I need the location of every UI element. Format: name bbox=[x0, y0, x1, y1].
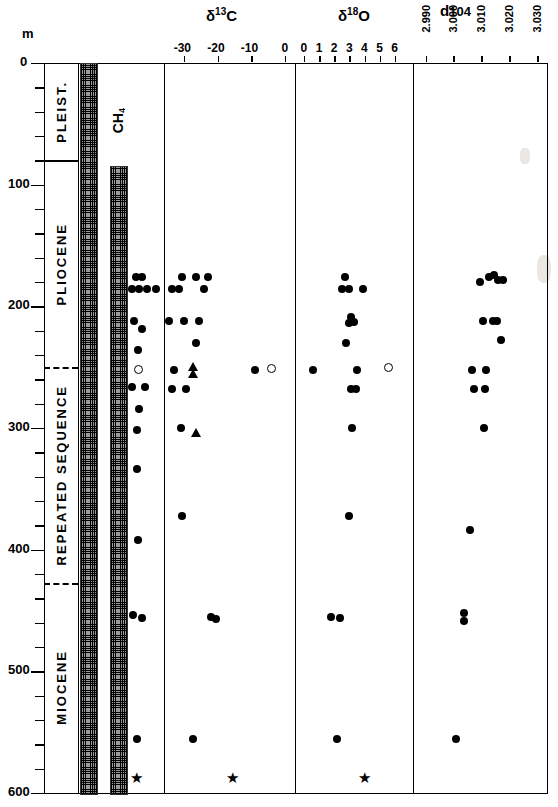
data-point bbox=[480, 424, 488, 432]
figure-canvas: m δ13C δ18O d104 H2S CH4 010020030040050… bbox=[0, 0, 558, 807]
depth-tick bbox=[35, 525, 44, 526]
data-point bbox=[192, 339, 200, 347]
data-point bbox=[470, 385, 478, 393]
d13c-superscript: 13 bbox=[215, 6, 226, 17]
depth-tick bbox=[31, 550, 44, 551]
data-point bbox=[345, 285, 353, 293]
depth-tick-label: 300 bbox=[8, 419, 30, 434]
depth-tick bbox=[35, 258, 44, 259]
d104-tick bbox=[481, 56, 482, 62]
d104-tick-label: 2.990 bbox=[420, 5, 432, 33]
panel-divider-4 bbox=[413, 63, 414, 793]
d18o-element: O bbox=[358, 7, 370, 24]
d18O-tick bbox=[304, 56, 305, 62]
d18O-tick bbox=[334, 56, 335, 62]
data-point bbox=[251, 366, 259, 374]
d13C-tick bbox=[285, 56, 286, 62]
data-point bbox=[182, 385, 190, 393]
d18O-tick-label: 4 bbox=[361, 41, 368, 55]
data-point bbox=[133, 426, 141, 434]
data-point-star: ★ bbox=[226, 770, 239, 785]
data-point bbox=[178, 512, 186, 520]
data-point-open bbox=[267, 364, 276, 373]
depth-tick bbox=[35, 477, 44, 478]
depth-tick bbox=[35, 87, 44, 88]
depth-unit-label: m bbox=[22, 26, 34, 41]
depth-tick-label: 100 bbox=[8, 176, 30, 191]
d104-tick bbox=[509, 56, 510, 62]
depth-tick-label: 200 bbox=[8, 297, 30, 312]
depth-tick-label: 500 bbox=[8, 662, 30, 677]
d18O-tick-label: 2 bbox=[331, 41, 338, 55]
depth-tick bbox=[35, 623, 44, 624]
d18o-superscript: 18 bbox=[347, 6, 358, 17]
data-point bbox=[134, 346, 142, 354]
depth-tick bbox=[35, 282, 44, 283]
data-point bbox=[178, 273, 186, 281]
data-point bbox=[327, 613, 335, 621]
data-point bbox=[170, 366, 178, 374]
d104-tick bbox=[426, 56, 427, 62]
depth-tick-label: 400 bbox=[8, 541, 30, 556]
depth-tick bbox=[35, 501, 44, 502]
data-point-star: ★ bbox=[130, 770, 143, 785]
depth-tick bbox=[35, 160, 44, 161]
d104-tick bbox=[537, 56, 538, 62]
d104-tick-label: 3.010 bbox=[475, 5, 487, 33]
chart-top-border bbox=[32, 63, 548, 64]
data-point bbox=[141, 383, 149, 391]
data-point bbox=[192, 273, 200, 281]
data-point bbox=[143, 285, 151, 293]
data-point bbox=[476, 278, 484, 286]
depth-tick bbox=[35, 404, 44, 405]
d13C-tick bbox=[184, 56, 185, 62]
depth-tick bbox=[35, 696, 44, 697]
ch4-label: CH4 bbox=[110, 108, 127, 137]
data-point bbox=[466, 526, 474, 534]
data-point bbox=[133, 735, 141, 743]
data-point bbox=[342, 339, 350, 347]
depth-tick bbox=[31, 185, 44, 186]
depth-tick bbox=[31, 793, 44, 794]
d13C-tick-label: -10 bbox=[241, 41, 258, 55]
d13C-tick bbox=[218, 56, 219, 62]
depth-tick bbox=[35, 574, 44, 575]
data-point bbox=[482, 366, 490, 374]
data-point bbox=[135, 285, 143, 293]
depth-tick bbox=[35, 355, 44, 356]
d18O-tick bbox=[365, 56, 366, 62]
data-point bbox=[180, 317, 188, 325]
gas-bar-ch4 bbox=[110, 166, 128, 795]
d13c-element: C bbox=[226, 7, 237, 24]
depth-tick bbox=[35, 136, 44, 137]
data-point bbox=[152, 285, 160, 293]
data-point bbox=[341, 273, 349, 281]
axis-title-d13c: δ13C bbox=[206, 6, 237, 24]
data-point bbox=[460, 617, 468, 625]
data-point bbox=[345, 319, 353, 327]
depth-tick-label: 0 bbox=[20, 54, 27, 69]
data-point bbox=[499, 276, 507, 284]
d18O-tick bbox=[349, 56, 350, 62]
epoch-boundary-dashed bbox=[44, 583, 78, 585]
paper-smudge bbox=[520, 148, 530, 164]
paper-smudge bbox=[537, 255, 551, 283]
data-point bbox=[309, 366, 317, 374]
depth-tick bbox=[35, 647, 44, 648]
depth-tick bbox=[35, 233, 44, 234]
d18O-tick-label: 1 bbox=[316, 41, 323, 55]
depth-tick bbox=[35, 744, 44, 745]
panel-divider-2 bbox=[164, 63, 165, 793]
epoch-repeated-sequence: REPEATED SEQUENCE bbox=[44, 367, 78, 582]
d18O-tick-label: 5 bbox=[376, 41, 383, 55]
data-point bbox=[135, 405, 143, 413]
depth-tick bbox=[31, 63, 44, 64]
depth-tick bbox=[35, 379, 44, 380]
data-point bbox=[128, 383, 136, 391]
epoch-boundary-dashed bbox=[44, 367, 78, 369]
data-point bbox=[353, 366, 361, 374]
depth-tick bbox=[31, 671, 44, 672]
data-point bbox=[130, 317, 138, 325]
depth-tick bbox=[35, 112, 44, 113]
d13C-tick bbox=[251, 56, 252, 62]
